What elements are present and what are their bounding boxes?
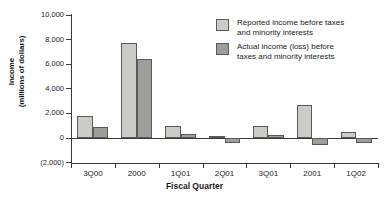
x-tick-label-2000: 2000 <box>115 169 159 178</box>
legend-item-actual: Actual income (loss) before taxes and mi… <box>216 42 386 61</box>
bar-2q01-actual <box>225 138 241 143</box>
bar-2001-actual <box>312 138 328 145</box>
x-tick-label-2001: 2001 <box>290 169 334 178</box>
y-tick: 0 <box>0 134 71 142</box>
bar-3q00-reported <box>77 116 93 138</box>
x-tick-mark <box>115 163 116 168</box>
legend-swatch-reported-icon <box>216 19 229 31</box>
y-tick: 6,000 <box>0 60 71 68</box>
x-tick-mark <box>334 163 335 168</box>
bar-3q00-actual <box>93 127 109 138</box>
bar-2000-reported <box>121 43 137 138</box>
x-tick-mark <box>378 163 379 168</box>
x-tick-label-1q01: 1Q01 <box>159 169 203 178</box>
y-tick-label: 2,000 <box>45 109 64 117</box>
bar-1q01-actual <box>181 134 197 138</box>
legend-label-actual: Actual income (loss) before taxes and mi… <box>237 42 386 61</box>
y-tick: 2,000 <box>0 109 71 117</box>
y-tick: 8,000 <box>0 36 71 44</box>
y-tick: 4,000 <box>0 85 71 93</box>
legend-label-reported: Reported income before taxes and minorit… <box>237 18 386 37</box>
bar-3q01-reported <box>253 126 269 138</box>
bar-1q01-reported <box>165 126 181 138</box>
bar-chart: Income (millions of dollars) 10,0008,000… <box>0 0 389 197</box>
x-tick-mark <box>290 163 291 168</box>
x-tick-label-1q02: 1Q02 <box>334 169 378 178</box>
x-tick-mark <box>203 163 204 168</box>
y-tick-label: 4,000 <box>45 85 64 93</box>
bar-1q02-reported <box>341 132 357 138</box>
x-tick-label-3q00: 3Q00 <box>71 169 115 178</box>
bar-1q02-actual <box>356 138 372 143</box>
bar-2001-reported <box>297 105 313 138</box>
bar-2000-actual <box>137 59 153 138</box>
y-tick-label: 10,000 <box>41 11 64 19</box>
x-axis-title: Fiscal Quarter <box>0 181 389 191</box>
y-tick-label: (2,000) <box>40 159 64 167</box>
y-tick-label: 6,000 <box>45 60 64 68</box>
x-tick-mark <box>246 163 247 168</box>
x-tick-label-2q01: 2Q01 <box>203 169 247 178</box>
legend: Reported income before taxes and minorit… <box>216 18 386 66</box>
y-axis-ticks: 10,0008,0006,0004,0002,0000(2,000) <box>0 0 71 175</box>
y-tick: (2,000) <box>0 159 71 167</box>
legend-item-reported: Reported income before taxes and minorit… <box>216 18 386 37</box>
x-tick-mark <box>159 163 160 168</box>
x-tick-label-3q01: 3Q01 <box>246 169 290 178</box>
y-tick: 10,000 <box>0 11 71 19</box>
bar-3q01-actual <box>268 135 284 138</box>
x-tick-mark <box>71 163 72 168</box>
bar-2q01-reported <box>209 136 225 138</box>
y-tick-label: 8,000 <box>45 36 64 44</box>
legend-swatch-actual-icon <box>216 43 229 55</box>
y-tick-label: 0 <box>60 134 64 142</box>
